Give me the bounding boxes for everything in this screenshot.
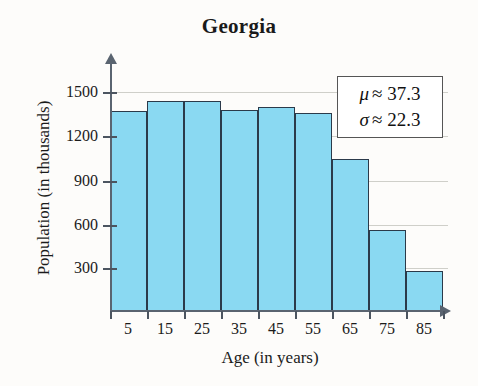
bar-age-65 <box>332 159 369 311</box>
x-tick-7 <box>369 311 371 319</box>
x-tick-label-55: 55 <box>293 320 333 338</box>
x-tick-9 <box>443 311 445 319</box>
stats-annotation-box: μ≈ 37.3 σ≈ 22.3 <box>337 76 443 138</box>
x-tick-1 <box>147 311 149 319</box>
y-tick-label-300: 300 <box>46 259 98 277</box>
x-tick-6 <box>332 311 334 319</box>
x-tick-5 <box>295 311 297 319</box>
y-tick-label-900: 900 <box>46 172 98 190</box>
x-tick-label-15: 15 <box>145 320 185 338</box>
x-tick-label-75: 75 <box>367 320 407 338</box>
x-tick-0 <box>110 311 112 319</box>
x-tick-3 <box>221 311 223 319</box>
chart-figure: Georgia Population (in thousands) Age (i… <box>0 0 478 386</box>
x-tick-label-45: 45 <box>256 320 296 338</box>
stats-sd-line: σ≈ 22.3 <box>338 107 442 133</box>
x-axis-line <box>110 310 442 312</box>
mean-value: 37.3 <box>387 83 420 104</box>
x-tick-label-85: 85 <box>404 320 444 338</box>
y-tick-1200 <box>103 136 117 138</box>
y-tick-1500 <box>103 92 117 94</box>
bar-age-25 <box>184 101 221 311</box>
x-tick-label-35: 35 <box>219 320 259 338</box>
y-tick-label-1500: 1500 <box>46 83 98 101</box>
y-axis-arrow-icon <box>105 53 117 64</box>
bar-age-35 <box>221 110 258 311</box>
x-tick-2 <box>184 311 186 319</box>
x-tick-4 <box>258 311 260 319</box>
y-axis-line <box>110 62 112 312</box>
mean-symbol: μ <box>360 83 373 104</box>
x-tick-8 <box>406 311 408 319</box>
x-tick-label-25: 25 <box>182 320 222 338</box>
bar-age-85 <box>406 271 443 311</box>
sd-symbol: σ <box>360 109 372 130</box>
x-axis-arrow-icon <box>440 305 451 317</box>
x-tick-label-5: 5 <box>108 320 148 338</box>
bar-age-15 <box>147 101 184 311</box>
sd-relation: ≈ <box>372 109 382 130</box>
stats-mean-line: μ≈ 37.3 <box>338 81 442 107</box>
y-tick-900 <box>103 181 117 183</box>
bar-age-55 <box>295 113 332 311</box>
bar-age-45 <box>258 107 295 311</box>
y-tick-label-600: 600 <box>46 216 98 234</box>
y-tick-600 <box>103 225 117 227</box>
sd-value: 22.3 <box>387 109 420 130</box>
x-tick-label-65: 65 <box>330 320 370 338</box>
y-tick-label-1200: 1200 <box>46 127 98 145</box>
bar-age-5 <box>110 111 147 311</box>
mean-relation: ≈ <box>372 83 382 104</box>
bar-age-75 <box>369 230 406 311</box>
y-tick-300 <box>103 268 117 270</box>
plot-area: 1500 1200 900 600 300 5 15 25 35 45 55 6… <box>0 0 478 386</box>
